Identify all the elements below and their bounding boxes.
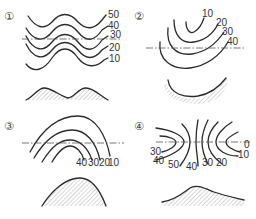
panel-4: ④ 30 40 50 40 30 20 10 0 — [134, 120, 250, 206]
label-20: 20 — [216, 157, 228, 168]
profile-2 — [164, 78, 228, 104]
label-40-left: 40 — [153, 155, 165, 166]
panel-2: ② 10 20 30 40 — [134, 8, 246, 104]
panel-1: ① 50 40 30 20 10 — [4, 9, 122, 100]
panel-marker-2: ② — [134, 10, 144, 23]
label-30-right: 30 — [202, 157, 214, 168]
panel-3: ③ 40 30 20 10 — [4, 116, 124, 206]
label-40: 40 — [227, 36, 239, 47]
label-50: 50 — [168, 159, 180, 170]
label-50: 50 — [108, 9, 120, 20]
label-40: 40 — [76, 157, 88, 168]
contour-lines-3 — [30, 116, 110, 162]
label-40-right: 40 — [186, 161, 198, 172]
panel-marker-3: ③ — [4, 120, 14, 133]
profile-1 — [26, 88, 108, 100]
profile-4 — [162, 186, 244, 206]
contour-diagram: ① 50 40 30 20 10 ② 10 20 30 40 — [0, 0, 256, 219]
panel-marker-4: ④ — [134, 120, 144, 133]
label-10: 10 — [202, 8, 214, 19]
panel-marker-1: ① — [4, 10, 14, 23]
label-30: 30 — [88, 157, 100, 168]
label-10: 10 — [109, 53, 121, 64]
profile-3 — [42, 178, 106, 206]
label-10: 10 — [108, 157, 120, 168]
contour-lines-1 — [26, 15, 108, 70]
label-20: 20 — [109, 42, 121, 53]
label-30: 30 — [110, 29, 122, 40]
label-0: 0 — [244, 139, 250, 150]
label-10: 10 — [238, 149, 250, 160]
